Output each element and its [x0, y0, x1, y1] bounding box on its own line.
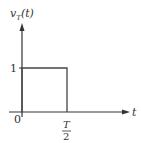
x-axis-arrow-icon [122, 110, 130, 115]
x-axis-label: t [132, 106, 137, 119]
y-axis-label: vT(t) [10, 7, 34, 22]
y-tick-label: 1 [10, 62, 17, 75]
origin-label: 0 [14, 113, 21, 126]
pulse-diagram: vT(t) 1 0 T 2 t [0, 0, 141, 143]
x-tick-numerator: T [63, 119, 71, 130]
x-tick-denominator: 2 [63, 131, 69, 142]
y-axis-arrow-icon [20, 23, 25, 31]
pulse-waveform [22, 68, 67, 112]
